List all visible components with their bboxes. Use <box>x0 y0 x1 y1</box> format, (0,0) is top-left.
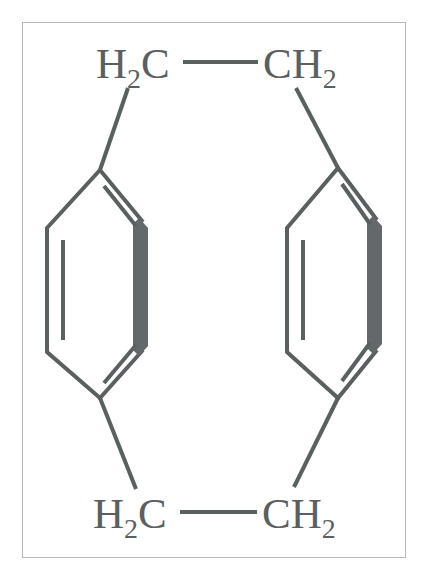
atom-label-top-left-tail: C <box>141 40 170 87</box>
figure-frame <box>23 23 406 558</box>
atom-label-top-left-sub: 2 <box>127 63 141 94</box>
chemical-structure-figure: H2C CH2 H2C CH2 <box>0 0 421 575</box>
atom-label-bottom-left-sub: 2 <box>124 513 138 544</box>
ring-left-bold-edge <box>133 218 148 356</box>
atom-label-bottom-right-sub: 2 <box>322 513 336 544</box>
structure-canvas: H2C CH2 H2C CH2 <box>0 0 421 575</box>
ring-right-bold-edge <box>367 216 382 354</box>
atom-label-top-right-sub: 2 <box>323 63 337 94</box>
atom-label-top-left-main: H <box>96 40 127 87</box>
atom-label-bottom-left-tail: C <box>138 490 167 537</box>
atom-label-bottom-left-main: H <box>93 490 124 537</box>
atom-label-top-right-main: CH <box>263 40 323 87</box>
atom-label-bottom-right-main: CH <box>262 490 322 537</box>
